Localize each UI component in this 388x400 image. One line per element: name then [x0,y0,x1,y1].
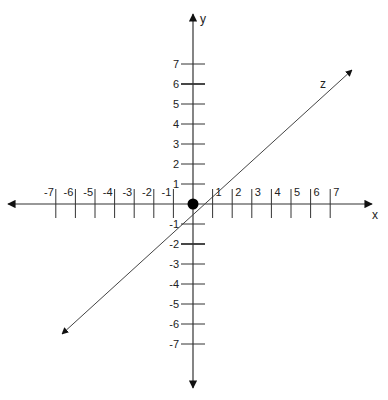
x-tick-label: -4 [103,186,113,198]
y-tick-label: 3 [173,138,179,150]
y-tick-label: -1 [169,218,179,230]
y-tick-label: 5 [173,98,179,110]
axes-svg: -7-6-5-4-3-2-11234567 7654321-1-2-3-4-5-… [0,0,388,400]
y-tick-label: 1 [173,178,179,190]
x-tick-label: 6 [314,186,320,198]
x-tick-label: 2 [235,186,241,198]
z-axis-label: z [320,77,326,91]
x-tick-label: -3 [122,186,132,198]
y-tick-label: 4 [173,118,179,130]
x-tick-label: 1 [216,186,222,198]
y-tick-label: 7 [173,58,179,70]
y-tick-label: -4 [169,278,179,290]
coordinate-diagram: -7-6-5-4-3-2-11234567 7654321-1-2-3-4-5-… [0,0,388,400]
origin-point [188,199,199,210]
y-tick-label: -2 [169,238,179,250]
x-tick-label: -6 [64,186,74,198]
y-tick-label: -5 [169,298,179,310]
x-tick-label: -1 [162,186,172,198]
x-axis-label: x [372,208,378,222]
z-axis-line [62,70,352,334]
y-tick-label: 6 [173,78,179,90]
x-tick-label: -7 [44,186,54,198]
y-tick-label: -7 [169,338,179,350]
y-tick-label: -3 [169,258,179,270]
x-tick-label: 7 [333,186,339,198]
y-tick-label: 2 [173,158,179,170]
x-tick-label: 4 [274,186,280,198]
x-tick-label: -5 [83,186,93,198]
x-tick-label: 5 [294,186,300,198]
x-tick-label: -2 [142,186,152,198]
x-tick-label: 3 [255,186,261,198]
y-tick-label: -6 [169,318,179,330]
y-axis-label: y [200,12,206,26]
